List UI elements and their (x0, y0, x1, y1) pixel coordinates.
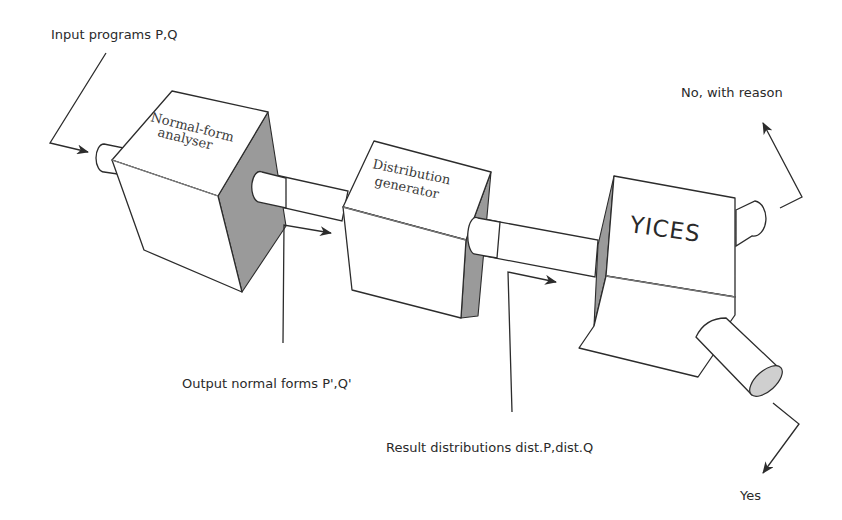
pipeline-diagram: Normal-form analyser Distribution genera… (0, 0, 842, 520)
result-distributions-label: Result distributions dist.P,dist.Q (386, 440, 593, 455)
input-label: Input programs P,Q (51, 27, 177, 42)
yes-label: Yes (739, 488, 761, 503)
generator-outlet (468, 217, 500, 258)
input-arrow (50, 53, 106, 152)
distributions-arrow (508, 272, 556, 412)
normal-form-analyser-box[interactable]: Normal-form analyser (112, 91, 286, 292)
no-with-reason-label: No, with reason (681, 85, 783, 100)
normal-forms-arrow (283, 225, 331, 343)
output-normal-forms-label: Output normal forms P',Q' (182, 376, 352, 391)
no-arrow (763, 123, 802, 208)
yes-arrow (763, 403, 799, 473)
no-outlet-pipe (736, 201, 766, 246)
